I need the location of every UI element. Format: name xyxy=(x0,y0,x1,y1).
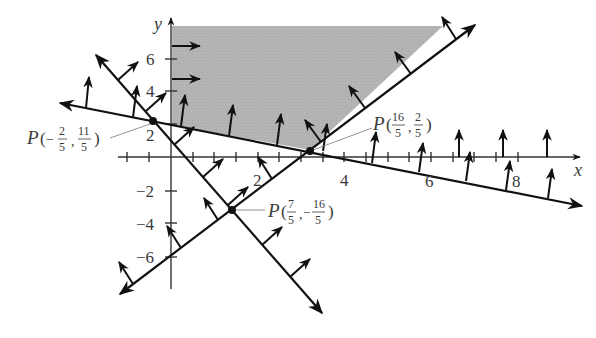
svg-text:): ) xyxy=(328,202,334,221)
svg-text:P: P xyxy=(267,200,280,221)
arrow-icon xyxy=(204,198,218,220)
x-tick-label: 6 xyxy=(425,172,434,191)
vertex-dot xyxy=(228,206,236,214)
x-tick-label: 8 xyxy=(512,172,521,191)
arrow-icon xyxy=(372,132,376,163)
svg-text:5: 5 xyxy=(59,140,65,154)
svg-text:P: P xyxy=(372,113,385,134)
svg-text:5: 5 xyxy=(315,213,321,227)
arrow-icon xyxy=(442,17,456,39)
y-tick-label: 2 xyxy=(146,126,155,145)
arrow-icon xyxy=(548,169,552,198)
y-axis xyxy=(165,18,177,289)
point-label-p3: P ( 7 5 , − 16 5 ) xyxy=(267,197,334,227)
y-tick-label: −6 xyxy=(136,248,154,267)
svg-text:(: ( xyxy=(281,202,287,221)
arrow-icon xyxy=(228,187,248,205)
x-axis-label: x xyxy=(573,160,582,180)
arrow-icon xyxy=(506,161,510,190)
arrow-icon xyxy=(174,127,194,145)
svg-text:2: 2 xyxy=(59,124,65,138)
arrow-icon xyxy=(203,159,223,177)
svg-text:−: − xyxy=(46,132,54,147)
feasible-region xyxy=(172,26,443,150)
y-tick-label: 6 xyxy=(146,50,155,69)
diagram-canvas: x y 2 4 6 8 6 4 2 −2 −4 −6 P ( − 2 5 , 1… xyxy=(0,0,596,338)
svg-text:16: 16 xyxy=(392,110,404,124)
svg-text:5: 5 xyxy=(288,213,294,227)
y-tick-label: −4 xyxy=(136,215,155,234)
svg-text:5: 5 xyxy=(81,140,87,154)
svg-text:−: − xyxy=(303,205,310,220)
svg-text:16: 16 xyxy=(313,197,325,211)
svg-text:5: 5 xyxy=(395,126,401,140)
vertex-dot xyxy=(306,147,314,155)
y-tick-label: −2 xyxy=(136,182,154,201)
svg-text:11: 11 xyxy=(78,124,90,138)
svg-text:,: , xyxy=(71,134,75,149)
arrow-icon xyxy=(119,262,133,284)
svg-text:,: , xyxy=(408,120,412,135)
y-axis-label: y xyxy=(152,14,162,34)
vertex-dot xyxy=(149,117,157,125)
point-label-p1: P ( − 2 5 , 11 5 ) xyxy=(26,124,100,154)
y-tick-label: 4 xyxy=(146,82,155,101)
arrow-icon xyxy=(118,62,138,80)
svg-text:7: 7 xyxy=(288,197,294,211)
x-tick-label: 4 xyxy=(340,171,349,190)
point-label-p2: P ( 16 5 , 2 5 ) xyxy=(372,110,432,140)
x-tick-label: 2 xyxy=(253,171,262,190)
svg-text:P: P xyxy=(26,127,39,148)
svg-text:): ) xyxy=(94,129,100,148)
svg-text:2: 2 xyxy=(415,110,421,124)
arrow-icon xyxy=(290,259,310,277)
svg-text:5: 5 xyxy=(415,126,421,140)
svg-text:,: , xyxy=(299,207,303,222)
arrow-icon xyxy=(262,227,282,245)
arrow-icon xyxy=(167,226,181,248)
svg-text:): ) xyxy=(426,115,432,134)
arrow-icon xyxy=(86,77,89,108)
